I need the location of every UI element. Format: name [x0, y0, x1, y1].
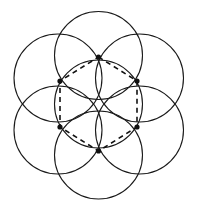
vertex-upper-right [134, 78, 139, 83]
vertex-upper-left [57, 78, 62, 83]
vertex-lower-left [57, 124, 62, 129]
vertex-bottom [96, 148, 101, 153]
vertex-top [96, 54, 101, 59]
figure-background [0, 0, 197, 213]
figure-container [0, 0, 197, 213]
geometric-diagram [0, 0, 197, 213]
vertex-lower-right [134, 124, 139, 129]
